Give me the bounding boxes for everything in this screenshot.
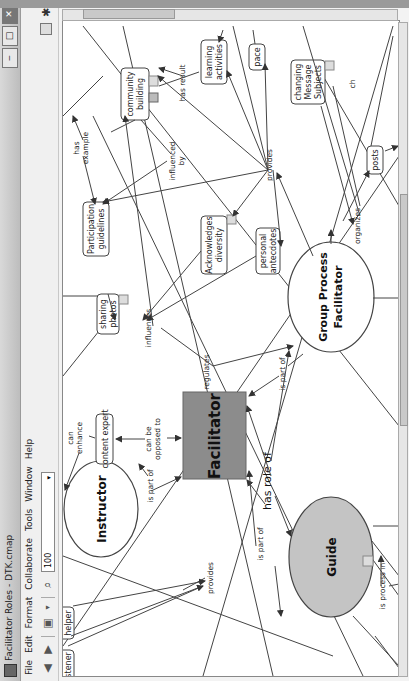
changing-message-subjects-line2: Message bbox=[304, 64, 313, 99]
concept-content-expert[interactable]: content expert bbox=[96, 409, 113, 468]
concept-sharing-photos[interactable]: sharing photos bbox=[97, 294, 128, 334]
link-organizes[interactable]: organizes bbox=[353, 208, 362, 244]
concept-map-canvas[interactable]: Instructor Facilitator Guide Group Proce… bbox=[62, 20, 400, 677]
link-is-part-of-guide[interactable]: is part of bbox=[256, 527, 265, 561]
posts-label: posts bbox=[371, 149, 380, 170]
facilitator-label: Facilitator bbox=[206, 392, 224, 479]
listener-label: istener bbox=[64, 651, 73, 676]
horizontal-scrollbar[interactable] bbox=[398, 22, 408, 677]
menu-collaborate[interactable]: Collaborate bbox=[24, 538, 34, 590]
concept-group-process-facilitator[interactable]: Group Process Facilitator bbox=[288, 242, 374, 352]
acknowledges-diversity-line1: Acknowledges bbox=[205, 216, 214, 273]
horizontal-scroll-thumb[interactable] bbox=[400, 194, 408, 426]
link-can-be-opposed-to-1[interactable]: can be bbox=[144, 426, 153, 452]
link-can-be-opposed-to-2[interactable]: opposed to bbox=[153, 418, 162, 460]
resource-icon[interactable] bbox=[363, 556, 373, 566]
learning-activities-line1: learning bbox=[205, 46, 214, 79]
sharing-photos-line1: sharing bbox=[99, 299, 108, 329]
helper-label: helper bbox=[64, 610, 73, 636]
participation-guidelines-line1: Participation bbox=[87, 204, 96, 254]
menu-edit[interactable]: Edit bbox=[24, 636, 34, 653]
vertical-scrollbar[interactable] bbox=[62, 9, 398, 21]
concept-map-svg: Instructor Facilitator Guide Group Proce… bbox=[63, 21, 399, 676]
link-can-enhance-1[interactable]: can bbox=[66, 431, 75, 445]
concept-guide[interactable]: Guide bbox=[289, 497, 373, 617]
link-is-process-in[interactable]: is process in bbox=[378, 563, 387, 610]
concept-personal-antecdotes[interactable]: personal antecdotes bbox=[256, 228, 280, 274]
zoom-level-select[interactable]: 100 ▾ bbox=[41, 472, 55, 572]
gpf-label-line2: Facilitator bbox=[332, 265, 345, 329]
participation-guidelines-line2: guidelines bbox=[97, 209, 106, 250]
link-influenced-by-2[interactable]: by bbox=[177, 156, 186, 166]
changing-message-subjects-line3: Subjects bbox=[314, 65, 323, 99]
concept-participation-guidelines[interactable]: Participation guidelines bbox=[83, 202, 109, 256]
link-has-result[interactable]: has result bbox=[178, 65, 187, 102]
forward-arrow-icon[interactable]: ▶ bbox=[41, 643, 54, 656]
zoom-magnifier-icon: ⌕ bbox=[41, 578, 54, 591]
menu-window[interactable]: Window bbox=[24, 466, 34, 502]
minimize-button[interactable]: ‒ bbox=[2, 48, 18, 68]
pace-label: pace bbox=[253, 47, 262, 66]
menu-help[interactable]: Help bbox=[24, 439, 34, 460]
maximize-button[interactable]: □ bbox=[2, 26, 18, 46]
vertical-scroll-thumb[interactable] bbox=[83, 9, 175, 19]
concept-posts[interactable]: posts bbox=[367, 146, 383, 174]
resource-icon[interactable] bbox=[325, 61, 334, 70]
community-building-line1: community bbox=[126, 71, 135, 116]
link-can-enhance-2[interactable]: enhance bbox=[75, 422, 84, 455]
back-arrow-icon[interactable]: ◀ bbox=[41, 662, 54, 675]
menu-format[interactable]: Format bbox=[24, 597, 34, 629]
title-bar: Facilitator Roles - DTK.cmap ‒ □ ✕ bbox=[0, 0, 21, 681]
link-is-part-of-instructor[interactable]: is part of bbox=[146, 469, 155, 503]
link-provides-bottom[interactable]: provides bbox=[206, 562, 215, 594]
link-influenced-by-1[interactable]: influenced bbox=[168, 141, 177, 180]
link-has-example-1[interactable]: has bbox=[72, 141, 81, 154]
toolbar-separator bbox=[41, 636, 55, 637]
acknowledges-diversity-line2: diversity bbox=[215, 227, 224, 262]
community-building-line2: building bbox=[136, 78, 145, 110]
instructor-label: Instructor bbox=[95, 475, 109, 542]
resource-icon[interactable] bbox=[227, 215, 236, 224]
window-title: Facilitator Roles - DTK.cmap bbox=[4, 535, 14, 661]
concept-helper[interactable]: helper bbox=[63, 607, 74, 639]
panel-icon[interactable] bbox=[40, 23, 52, 35]
chevron-down-icon: ▾ bbox=[42, 476, 56, 480]
concept-facilitator[interactable]: Facilitator bbox=[183, 392, 246, 479]
zoom-level-value: 100 bbox=[44, 553, 53, 568]
concept-pace[interactable]: pace bbox=[249, 44, 265, 70]
concept-instructor[interactable]: Instructor bbox=[64, 461, 138, 557]
menu-bar: File Edit Format Collaborate Tools Windo… bbox=[21, 0, 37, 681]
toolbar-separator bbox=[41, 597, 55, 598]
resource-icon[interactable] bbox=[119, 295, 128, 304]
menu-file[interactable]: File bbox=[24, 660, 34, 675]
view-dropdown-icon[interactable]: ▾ bbox=[41, 604, 54, 611]
window-frame-edge bbox=[0, 0, 409, 8]
link-regulates[interactable]: regulates bbox=[202, 354, 211, 389]
changing-message-subjects-line1: changing bbox=[294, 64, 303, 101]
personal-antecdotes-line1: personal bbox=[259, 234, 268, 269]
toolbar: ◀ ▶ ▣ ▾ ⌕ 100 ▾ ✱ bbox=[37, 0, 59, 681]
concept-learning-activities[interactable]: learning activities bbox=[201, 40, 227, 84]
personal-antecdotes-line2: antecdotes bbox=[269, 229, 278, 274]
link-has-example-2[interactable]: example bbox=[81, 131, 90, 164]
menu-tools[interactable]: Tools bbox=[24, 509, 34, 531]
concept-listener[interactable]: istener bbox=[63, 650, 74, 676]
concept-community-building[interactable]: community building bbox=[121, 68, 158, 120]
resource-icon[interactable] bbox=[149, 93, 158, 102]
resource-icon[interactable] bbox=[149, 76, 158, 86]
rotated-screenshot: Facilitator Roles - DTK.cmap ‒ □ ✕ File … bbox=[0, 0, 409, 681]
concept-acknowledges-diversity[interactable]: Acknowledges diversity bbox=[201, 215, 236, 274]
guide-label: Guide bbox=[325, 537, 339, 576]
toolbar-right-icons: ✱ bbox=[40, 6, 53, 35]
window-controls: ‒ □ ✕ bbox=[2, 4, 18, 68]
view-mode-icon[interactable]: ▣ bbox=[41, 617, 54, 630]
concept-changing-message-subjects[interactable]: changing Message Subjects bbox=[291, 60, 334, 104]
content-expert-label: content expert bbox=[101, 409, 110, 468]
gpf-label-line1: Group Process bbox=[317, 252, 330, 342]
learning-activities-line2: activities bbox=[215, 44, 224, 80]
link-partial-ch[interactable]: ch bbox=[348, 79, 357, 88]
cmaptools-app-icon bbox=[4, 664, 17, 677]
